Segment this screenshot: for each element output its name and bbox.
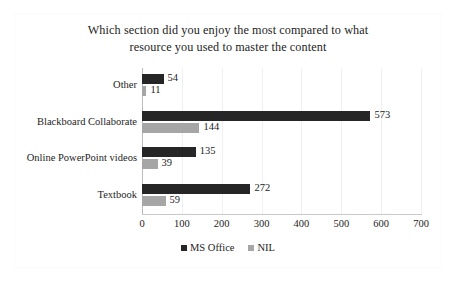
- bar-group: Other5411: [142, 74, 421, 103]
- category-label: Textbook: [0, 189, 137, 200]
- bar-group: Blackboard Collaborate573144: [142, 111, 421, 140]
- bar-group: Online PowerPoint videos13539: [142, 147, 421, 176]
- plot-area: Other5411Blackboard Collaborate573144Onl…: [142, 68, 421, 214]
- chart-title: Which section did you enjoy the most com…: [30, 22, 426, 56]
- legend-swatch-icon: [181, 245, 187, 251]
- bar-ms-office[interactable]: [142, 184, 250, 194]
- bar-group: Textbook27259: [142, 184, 421, 213]
- x-axis-tick-labels: 0100200300400500600700: [142, 217, 422, 233]
- x-tick-label: 0: [139, 217, 144, 230]
- chart-title-line-2: resource you used to master the content: [30, 39, 426, 56]
- bar-nil[interactable]: [142, 123, 199, 133]
- x-tick-label: 400: [294, 217, 310, 230]
- legend-label: NIL: [257, 242, 275, 253]
- category-label: Online PowerPoint videos: [0, 152, 137, 163]
- category-label: Other: [0, 79, 137, 90]
- chart-title-line-1: Which section did you enjoy the most com…: [30, 22, 426, 39]
- bar-ms-office[interactable]: [142, 147, 196, 157]
- bar-value-label: 272: [254, 183, 270, 193]
- bar-value-label: 54: [168, 73, 179, 83]
- legend-item-nil[interactable]: NIL: [248, 242, 275, 253]
- bar-value-label: 11: [150, 85, 160, 95]
- chart-legend: MS OfficeNIL: [0, 242, 456, 253]
- bar-value-label: 59: [170, 195, 181, 205]
- bar-nil[interactable]: [142, 159, 158, 169]
- legend-swatch-icon: [248, 245, 254, 251]
- x-tick-label: 700: [413, 217, 429, 230]
- x-tick-label: 500: [333, 217, 349, 230]
- bar-nil[interactable]: [142, 86, 146, 96]
- bar-value-label: 135: [200, 146, 216, 156]
- category-label: Blackboard Collaborate: [0, 116, 137, 127]
- bar-value-label: 39: [162, 158, 173, 168]
- chart-container: Which section did you enjoy the most com…: [0, 0, 456, 283]
- x-tick-label: 600: [373, 217, 389, 230]
- x-tick-label: 100: [174, 217, 190, 230]
- legend-label: MS Office: [190, 242, 234, 253]
- legend-item-ms-office[interactable]: MS Office: [181, 242, 234, 253]
- x-axis-line: [142, 214, 422, 215]
- x-tick-label: 200: [214, 217, 230, 230]
- x-tick-label: 300: [254, 217, 270, 230]
- bar-value-label: 144: [203, 122, 219, 132]
- bar-nil[interactable]: [142, 196, 166, 206]
- bar-ms-office[interactable]: [142, 111, 370, 121]
- bar-value-label: 573: [374, 110, 390, 120]
- bar-ms-office[interactable]: [142, 74, 164, 84]
- gridline-700: [421, 68, 422, 214]
